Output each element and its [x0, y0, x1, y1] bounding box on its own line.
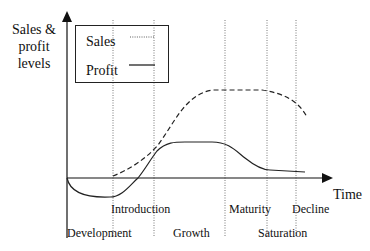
stage-label-maturity: Maturity — [229, 202, 271, 216]
stage-label-development: Development — [67, 226, 132, 240]
legend: Sales Profit — [75, 25, 169, 83]
stage-label-growth: Growth — [173, 226, 210, 240]
sales-curve — [113, 90, 307, 176]
stage-label-introduction: Introduction — [111, 202, 170, 216]
stage-label-saturation: Saturation — [258, 226, 307, 240]
x-axis-arrow-icon — [322, 173, 333, 183]
y-axis-label: Sales & profit levels — [2, 21, 66, 72]
legend-profit-label: Profit — [86, 63, 118, 79]
y-axis-label-line-2: profit — [2, 38, 66, 55]
x-axis-label: Time — [333, 188, 362, 202]
y-axis-label-line-1: Sales & — [2, 21, 66, 38]
profit-curve — [67, 142, 305, 197]
y-axis-label-line-3: levels — [2, 55, 66, 72]
stage-label-decline: Decline — [292, 202, 329, 216]
